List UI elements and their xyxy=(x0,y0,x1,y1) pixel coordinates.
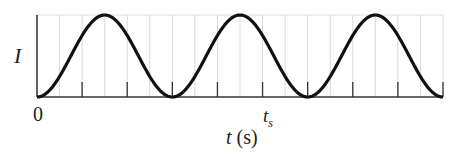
x-tick-label-ts: ts xyxy=(263,105,273,131)
ts-subscript: s xyxy=(268,116,273,130)
x-axis-label: t (s) xyxy=(226,126,258,149)
x-axis-unit: (s) xyxy=(232,126,258,148)
y-axis-label: I xyxy=(14,43,21,69)
grid-lines xyxy=(37,15,443,97)
x-tick-label-zero: 0 xyxy=(33,103,43,126)
x-axis-ticks xyxy=(82,82,443,97)
